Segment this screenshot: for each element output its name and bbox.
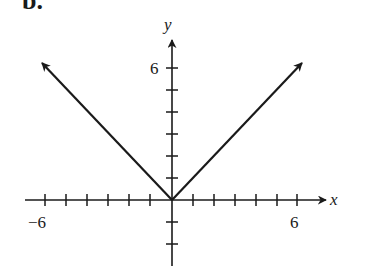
chart: −6 6 x 6 y <box>0 0 375 275</box>
x-axis: −6 6 x <box>25 190 338 232</box>
x-axis-label: x <box>329 190 338 209</box>
x-tick-label-neg6: −6 <box>28 213 46 232</box>
y-axis-label: y <box>162 15 172 34</box>
y-tick-label-6: 6 <box>150 59 159 78</box>
y-axis: 6 y <box>150 15 178 266</box>
x-tick-label-6: 6 <box>290 213 299 232</box>
